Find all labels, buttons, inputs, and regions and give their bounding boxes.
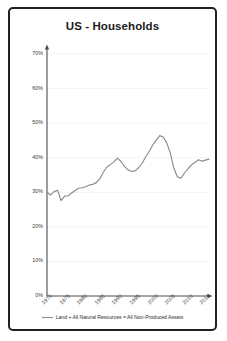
y-tick-label: 0% [21,293,43,298]
data-line-0 [47,136,209,201]
axis-lines [45,45,213,299]
y-tick-label: 30% [21,189,43,194]
chart-card: US - Households 0%10%20%30%40%50%60%70% … [8,7,217,331]
data-line-group [47,136,209,201]
y-tick-label: 20% [21,224,43,229]
y-tick-label: 50% [21,120,43,125]
legend-label: Land + All Natural Resources = All Non-P… [56,314,184,320]
y-tick-label: 40% [21,155,43,160]
chart-svg [10,9,215,329]
plot-area: 0%10%20%30%40%50%60%70% 1970197519801985… [10,9,215,329]
chart-legend: Land + All Natural Resources = All Non-P… [10,314,215,320]
gridlines [47,54,209,261]
y-tick-label: 70% [21,51,43,56]
legend-line-swatch [42,317,53,318]
y-tick-label: 10% [21,258,43,263]
y-tick-label: 60% [21,86,43,91]
y-axis-arrow [45,45,49,50]
